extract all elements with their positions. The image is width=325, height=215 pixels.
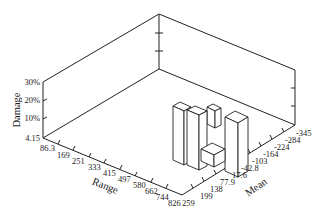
range-tick: 497 [118, 174, 131, 184]
range-tick: 333 [88, 162, 101, 172]
range-tick: 415 [103, 168, 116, 178]
mean-tick: -345 [296, 128, 312, 138]
mean-tick: 259 [182, 198, 195, 208]
range-tick: 86.3 [40, 143, 55, 153]
z-tick: 30% [24, 77, 40, 87]
mean-axis-title: Mean [243, 175, 270, 198]
damage-axis-labels: 30% 20% 10% 4.15 Damage [11, 77, 40, 143]
range-tick: 580 [133, 180, 146, 190]
bars [173, 102, 248, 177]
z-tick: 4.15 [25, 133, 40, 143]
z-tick: 10% [24, 113, 40, 123]
range-tick: 826 [168, 198, 181, 208]
range-tick: 169 [57, 150, 70, 160]
z-tick: 20% [24, 95, 40, 105]
damage-axis-title: Damage [11, 92, 22, 127]
range-axis-title: Range [91, 176, 120, 196]
chart-3d-bar: 30% 20% 10% 4.15 Damage 86.3 169 251 333… [0, 0, 325, 215]
range-tick: 251 [72, 156, 85, 166]
range-axis-labels: 86.3 169 251 333 415 497 580 662 744 826… [40, 143, 181, 208]
bar [207, 104, 221, 128]
